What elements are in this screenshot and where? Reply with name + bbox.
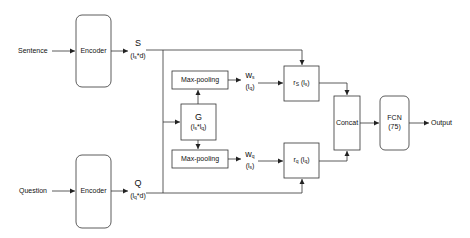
rq-label: rq (lq)	[284, 143, 319, 178]
fcn-units: (75)	[388, 123, 400, 132]
g-symbol: G	[195, 112, 202, 123]
s-dimension: (ls*d)	[130, 52, 145, 60]
fcn-name: FCN	[387, 114, 401, 123]
arrow-rs-concat	[319, 83, 347, 95]
wq-dimension: (ls)	[246, 162, 255, 170]
encoder-top-label: Encoder	[76, 15, 111, 87]
line-s-to-rs	[146, 50, 302, 65]
s-symbol: S	[135, 39, 141, 48]
maxpool-top-label: Max-pooling	[172, 71, 228, 89]
fcn-label: FCN (75)	[380, 96, 409, 150]
arrow-rq-concat	[319, 151, 347, 161]
maxpool-bottom-label: Max-pooling	[172, 150, 228, 168]
line-q-to-rq	[146, 179, 302, 193]
ws-dimension: (lq)	[245, 83, 254, 91]
ws-symbol: ws	[246, 71, 255, 80]
question-label: Question	[19, 187, 47, 194]
concat-label: Concat	[334, 96, 360, 150]
rs-label: rS (ls)	[284, 66, 319, 101]
sentence-label: Sentence	[18, 47, 48, 54]
g-dimension: (ls*lq)	[191, 123, 207, 132]
encoder-bottom-label: Encoder	[76, 155, 111, 228]
wq-symbol: wq	[245, 150, 254, 159]
q-symbol: Q	[134, 179, 141, 188]
g-label: G (ls*lq)	[181, 104, 216, 140]
output-label: Output	[431, 119, 452, 126]
q-dimension: (lq*d)	[130, 192, 146, 200]
